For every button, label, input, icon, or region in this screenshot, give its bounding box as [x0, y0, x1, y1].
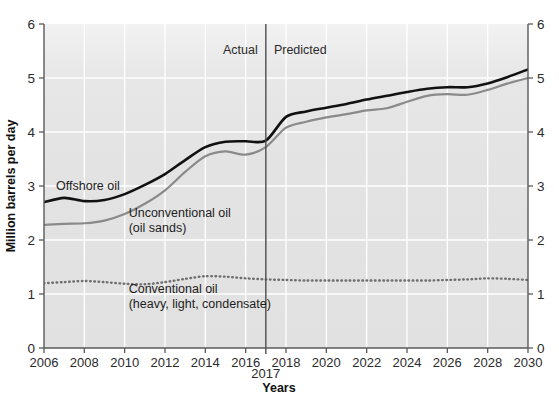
y-tick-label-left: 0: [27, 341, 35, 356]
x-tick-label: 2014: [191, 355, 220, 370]
y-tick-label-left: 5: [27, 71, 35, 86]
y-tick-label-right: 6: [537, 17, 545, 32]
y-axis-title: Million barrels per day: [4, 120, 18, 253]
x-tick-label: 2028: [473, 355, 502, 370]
x-tick-label: 2026: [433, 355, 462, 370]
predicted-label: Predicted: [274, 43, 327, 57]
x-tick-label: 2024: [393, 355, 422, 370]
y-tick-label-right: 1: [537, 287, 545, 302]
series-label-1: Offshore oil: [56, 179, 120, 193]
x-tick-label: 2010: [110, 355, 139, 370]
series-label-2: Unconventional oil: [129, 206, 231, 220]
x-axis-title: Years: [262, 381, 295, 395]
y-tick-label-left: 4: [27, 125, 35, 140]
series-label-3-line2: (heavy, light, condensate): [129, 297, 271, 311]
y-tick-label-right: 2: [537, 233, 545, 248]
y-tick-label-left: 6: [27, 17, 35, 32]
y-tick-label-left: 1: [27, 287, 35, 302]
divider-year-label: 2017: [251, 366, 280, 381]
x-tick-label: 2020: [312, 355, 341, 370]
x-tick-label: 2030: [514, 355, 543, 370]
x-tick-label: 2008: [70, 355, 99, 370]
y-tick-label-right: 0: [537, 341, 545, 356]
x-tick-label: 2006: [30, 355, 59, 370]
line-chart: 2006200820102012201420162018202020222024…: [0, 0, 559, 406]
x-tick-label: 2022: [352, 355, 381, 370]
series-label-2-line2: (oil sands): [129, 221, 187, 235]
y-tick-label-right: 3: [537, 179, 545, 194]
y-tick-label-left: 3: [27, 179, 35, 194]
actual-label: Actual: [223, 43, 258, 57]
y-tick-label-right: 5: [537, 71, 545, 86]
x-tick-label: 2012: [151, 355, 180, 370]
y-tick-label-left: 2: [27, 233, 35, 248]
y-tick-label-right: 4: [537, 125, 545, 140]
chart-container: 2006200820102012201420162018202020222024…: [0, 0, 559, 406]
series-label-3: Conventional oil: [129, 282, 218, 296]
